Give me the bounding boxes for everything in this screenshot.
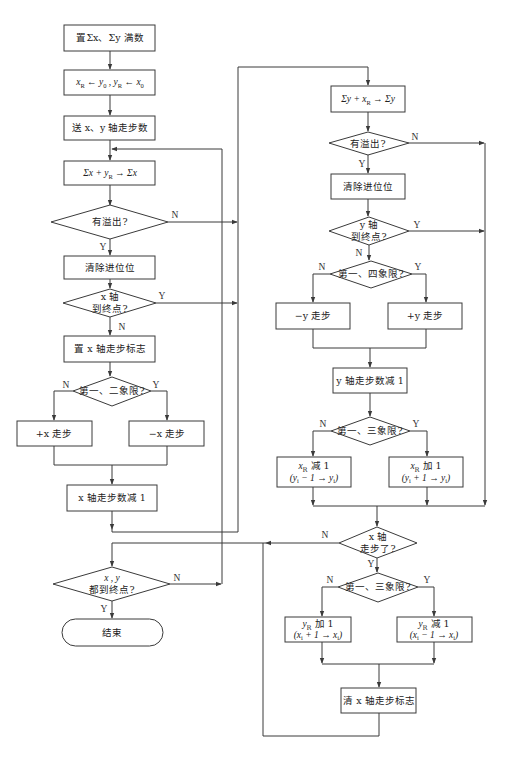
edge-label-quad12-no: N: [63, 380, 70, 390]
edge-label-xy-end-yes: Y: [101, 604, 108, 614]
node-init-sums-label: 置Σx、Σy 满数: [76, 32, 143, 43]
node-init-sums: 置Σx、Σy 满数: [64, 25, 155, 51]
node-minus-y-label: −y 走步: [295, 310, 331, 321]
node-minus-x: −x 走步: [129, 421, 204, 446]
arrow-quad12-yes: [151, 391, 167, 420]
node-clear-carry-y-label: 清除进位位: [343, 181, 393, 192]
decision-overflow-y: 有溢出?: [329, 132, 409, 155]
decision-x-stepped: x 轴 走步了?: [339, 527, 417, 558]
edge-label-x-end-no: N: [119, 322, 126, 332]
node-plus-y-label: +y 走步: [407, 310, 443, 321]
edge-label-quad13a-no: N: [320, 419, 327, 429]
decision-overflow-y-label: 有溢出?: [350, 138, 385, 149]
node-clear-carry-x-label: 清除进位位: [85, 262, 135, 273]
edge-label-overflow-x-no: N: [172, 210, 179, 220]
node-minus-y: −y 走步: [276, 303, 350, 329]
edge-label-overflow-y-yes: Y: [359, 159, 366, 169]
edge-label-overflow-x-yes: Y: [100, 242, 107, 252]
merge-x-step: [54, 446, 167, 465]
node-y-dec: y 轴走步数减 1: [333, 368, 407, 393]
node-send-steps: 送 x、y 轴走步数: [64, 116, 155, 140]
edge-label-y-end-no: N: [356, 248, 363, 258]
node-x-dec-label: x 轴走步数减 1: [78, 492, 145, 503]
decision-xy-end: x , y 都到终点?: [53, 567, 170, 601]
decision-y-end: y 轴 到终点?: [329, 217, 409, 245]
edge-label-x-end-yes: Y: [159, 291, 166, 301]
terminator-end-label: 结束: [102, 627, 122, 638]
node-sum-x: Σx + yR → Σx: [64, 161, 155, 185]
decision-x-end-label-2: 到终点?: [92, 303, 127, 314]
node-xr-inc: xR 加 1 (yi + 1 → yi): [389, 457, 463, 487]
decision-x-end-label-1: x 轴: [101, 291, 119, 302]
arrow-quad14-no: [313, 274, 330, 302]
edge-label-overflow-y-no: N: [412, 132, 419, 142]
edge-label-xy-end-no: N: [174, 573, 181, 583]
node-clear-carry-y: 清除进位位: [331, 174, 405, 199]
node-set-x-flag: 置 x 轴走步标志: [64, 336, 155, 362]
edge-label-x-stepped-no: N: [322, 530, 329, 540]
decision-y-end-label-2: 到终点?: [351, 231, 386, 242]
decision-x-stepped-label-1: x 轴: [369, 531, 387, 542]
edge-label-x-stepped-yes: Y: [368, 559, 375, 569]
node-minus-x-label: −x 走步: [149, 428, 185, 439]
decision-x-end: x 轴 到终点?: [63, 289, 156, 317]
merge-y-step: [313, 329, 426, 348]
node-xr-inc-label-2: (yi + 1 → yi): [402, 473, 451, 484]
edge-label-quad14-no: N: [319, 262, 326, 272]
node-yr-dec: yR 减 1 (xi − 1 → xi): [397, 617, 472, 642]
decision-y-end-label-1: y 轴: [359, 219, 378, 230]
line-x-dec-to-bus: [112, 529, 238, 532]
flowchart: 置Σx、Σy 满数 xR ← y0 , yR ← x0 送 x、y 轴走步数 Σ…: [0, 0, 506, 757]
node-clear-x-flag: 清 x 轴走步标志: [341, 688, 416, 713]
arrow-quad13b-yes: [418, 587, 434, 616]
node-clear-x-flag-label: 清 x 轴走步标志: [343, 695, 414, 706]
arrow-quad13b-no: [322, 587, 338, 616]
edge-label-y-end-yes: Y: [414, 220, 421, 230]
edge-label-quad14-yes: Y: [415, 262, 422, 272]
decision-quad-12-label: 第一、二象限?: [79, 385, 144, 396]
decision-overflow-x-label: 有溢出?: [92, 216, 127, 227]
node-clear-carry-x: 清除进位位: [64, 256, 155, 279]
decision-x-stepped-label-2: 走步了?: [360, 543, 395, 554]
node-yr-inc: yR 加 1 (xi + 1 → xi): [285, 617, 351, 642]
decision-xy-end-label-1: x , y: [103, 573, 120, 583]
edge-label-quad13b-yes: Y: [424, 575, 431, 585]
arrow-quad14-yes: [412, 274, 426, 302]
node-yr-dec-label-2: (xi − 1 → xi): [410, 630, 459, 641]
decision-quad-14: 第一、四象限?: [330, 261, 412, 288]
node-y-dec-label: y 轴走步数减 1: [335, 375, 403, 386]
edge-label-quad12-yes: Y: [153, 380, 160, 390]
decision-quad-13-b: 第一、三象限?: [338, 573, 418, 602]
node-plus-y: +y 走步: [388, 303, 462, 329]
edge-label-quad13a-yes: Y: [413, 419, 420, 429]
arrow-quad12-no: [54, 391, 73, 420]
terminator-end: 结束: [62, 619, 163, 646]
decision-quad-14-label: 第一、四象限?: [338, 268, 403, 279]
decision-quad-12: 第一、二象限?: [73, 377, 151, 406]
node-sum-y: Σy + xR → Σy: [331, 86, 405, 112]
node-init-regs: xR ← y0 , yR ← x0: [64, 70, 155, 95]
node-plus-x: +x 走步: [17, 421, 92, 446]
node-init-regs-label: xR ← y0 , yR ← x0: [75, 77, 144, 89]
decision-overflow-x: 有溢出?: [51, 205, 168, 239]
node-xr-dec: xR 减 1 (yi − 1 → yi): [277, 457, 351, 487]
decision-quad-13-b-label: 第一、三象限?: [345, 581, 410, 592]
node-set-x-flag-label: 置 x 轴走步标志: [74, 343, 145, 354]
decision-xy-end-label-2: 都到终点?: [89, 584, 134, 595]
node-plus-x-label: +x 走步: [36, 428, 72, 439]
arrow-quad13a-no: [313, 431, 331, 456]
node-yr-inc-label-2: (xi + 1 → xi): [294, 630, 343, 641]
node-send-steps-label: 送 x、y 轴走步数: [72, 122, 149, 133]
decision-quad-13-a-label: 第一、三象限?: [337, 425, 402, 436]
arrow-quad13a-yes: [410, 431, 427, 456]
decision-quad-13-a: 第一、三象限?: [331, 417, 410, 445]
edge-label-quad13b-no: N: [327, 575, 334, 585]
node-xr-dec-label-2: (yi − 1 → yi): [290, 473, 339, 484]
node-x-dec: x 轴走步数减 1: [67, 485, 157, 511]
